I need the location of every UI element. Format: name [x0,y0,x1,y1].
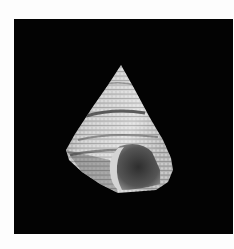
shell-illustration [14,19,233,234]
shell-photograph: Conical top shell with beaded spiral rid… [14,19,233,234]
